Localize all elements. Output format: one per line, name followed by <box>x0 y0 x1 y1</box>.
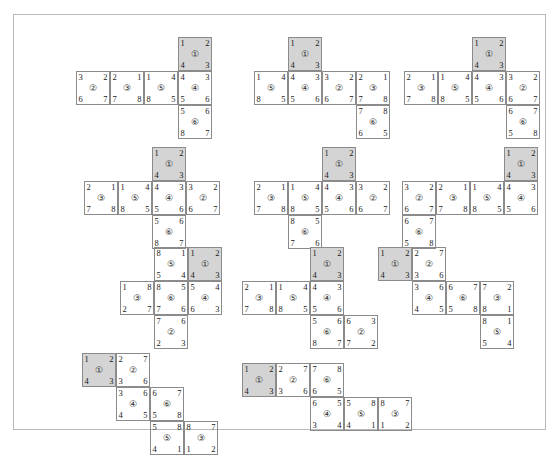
corner-bottom-left-label: 7 <box>347 339 351 348</box>
corner-bottom-left-label: 3 <box>415 271 419 280</box>
corner-bottom-right-label: 3 <box>337 271 341 280</box>
corner-top-right-label: 8 <box>337 365 341 374</box>
net-face-cell: ③2178 <box>254 181 288 215</box>
corner-bottom-right-label: 4 <box>337 421 341 430</box>
corner-bottom-left-label: 4 <box>507 171 511 180</box>
corner-top-left-label: 6 <box>405 217 409 226</box>
net-face-cell: ⑥6758 <box>150 387 184 421</box>
corner-top-right-label: 2 <box>213 183 217 192</box>
corner-bottom-left-label: 5 <box>483 339 487 348</box>
corner-top-left-label: 7 <box>157 317 161 326</box>
corner-top-right-label: 6 <box>205 107 209 116</box>
net-face-cell: ②3267 <box>322 71 356 105</box>
corner-bottom-right-label: 7 <box>349 95 353 104</box>
corner-bottom-left-label: 4 <box>153 445 157 454</box>
corner-bottom-right-label: 1 <box>177 445 181 454</box>
corner-bottom-right-label: 6 <box>499 95 503 104</box>
corner-bottom-left-label: 8 <box>121 205 125 214</box>
corner-top-left-label: 1 <box>291 183 295 192</box>
net-face-cell: ⑥5687 <box>152 215 186 249</box>
corner-bottom-left-label: 4 <box>313 271 317 280</box>
net-face-cell: ③2178 <box>356 71 390 105</box>
net-face-cell: ⑥6758 <box>506 105 540 139</box>
corner-top-left-label: 6 <box>347 317 351 326</box>
corner-bottom-right-label: 5 <box>383 129 387 138</box>
corner-top-right-label: 2 <box>507 283 511 292</box>
corner-bottom-left-label: 5 <box>313 305 317 314</box>
corner-bottom-right-label: 6 <box>337 305 341 314</box>
corner-bottom-left-label: 7 <box>157 305 161 314</box>
corner-top-right-label: 7 <box>143 355 147 364</box>
net-face-cell: ①1243 <box>310 247 344 281</box>
corner-top-left-label: 3 <box>405 183 409 192</box>
corner-bottom-left-label: 6 <box>313 387 317 396</box>
corner-top-right-label: 2 <box>531 149 535 158</box>
corner-top-right-label: 2 <box>429 183 433 192</box>
corner-bottom-left-label: 8 <box>291 205 295 214</box>
corner-bottom-left-label: 6 <box>325 95 329 104</box>
corner-bottom-right-label: 6 <box>349 205 353 214</box>
corner-bottom-right-label: 6 <box>303 387 307 396</box>
corner-bottom-right-label: 8 <box>177 411 181 420</box>
corner-bottom-right-label: 3 <box>179 171 183 180</box>
corner-bottom-left-label: 8 <box>155 239 159 248</box>
corner-bottom-left-label: 4 <box>475 61 479 70</box>
corner-top-left-label: 3 <box>325 73 329 82</box>
corner-bottom-right-label: 7 <box>179 239 183 248</box>
corner-bottom-left-label: 5 <box>475 95 479 104</box>
corner-top-left-label: 7 <box>359 107 363 116</box>
net-face-cell: ②6372 <box>344 315 378 349</box>
corner-bottom-right-label: 8 <box>269 305 273 314</box>
corner-bottom-right-label: 3 <box>499 61 503 70</box>
corner-top-right-label: 2 <box>179 149 183 158</box>
corner-bottom-right-label: 3 <box>269 387 273 396</box>
net-face-cell: ②3267 <box>76 71 110 105</box>
corner-bottom-right-label: 6 <box>205 95 209 104</box>
corner-top-right-label: 4 <box>281 73 285 82</box>
corner-top-right-label: 3 <box>315 73 319 82</box>
corner-bottom-right-label: 8 <box>463 205 467 214</box>
corner-bottom-left-label: 8 <box>257 95 261 104</box>
corner-top-right-label: 3 <box>371 317 375 326</box>
corner-top-left-label: 6 <box>509 107 513 116</box>
corner-top-right-label: 2 <box>103 73 107 82</box>
corner-top-right-label: 4 <box>303 283 307 292</box>
corner-top-right-label: 1 <box>269 283 273 292</box>
corner-bottom-right-label: 6 <box>439 271 443 280</box>
corner-bottom-right-label: 2 <box>371 339 375 348</box>
corner-top-left-label: 8 <box>157 283 161 292</box>
corner-top-left-label: 1 <box>245 365 249 374</box>
corner-top-left-label: 3 <box>359 183 363 192</box>
corner-top-right-label: 3 <box>205 73 209 82</box>
corner-bottom-right-label: 3 <box>531 171 535 180</box>
corner-bottom-left-label: 5 <box>405 239 409 248</box>
corner-bottom-left-label: 3 <box>279 387 283 396</box>
corner-top-right-label: 6 <box>181 317 185 326</box>
corner-bottom-right-label: 6 <box>179 205 183 214</box>
corner-top-left-label: 1 <box>191 249 195 258</box>
corner-bottom-right-label: 7 <box>383 205 387 214</box>
corner-top-left-label: 1 <box>313 249 317 258</box>
corner-bottom-right-label: 2 <box>405 421 409 430</box>
net-face-cell: ②3267 <box>356 181 390 215</box>
net-face-cell: ②3267 <box>186 181 220 215</box>
corner-top-right-label: 7 <box>177 389 181 398</box>
net-face-cell: ⑤1485 <box>470 181 504 215</box>
corner-bottom-right-label: 5 <box>281 95 285 104</box>
net-face-cell: ③8712 <box>184 421 218 455</box>
net-face-cell: ④4356 <box>310 281 344 315</box>
corner-top-left-label: 2 <box>407 73 411 82</box>
corner-bottom-right-label: 3 <box>349 171 353 180</box>
corner-bottom-right-label: 1 <box>371 421 375 430</box>
corner-top-right-label: 7 <box>405 399 409 408</box>
corner-bottom-left-label: 8 <box>441 95 445 104</box>
corner-bottom-left-label: 3 <box>119 377 123 386</box>
corner-bottom-right-label: 7 <box>533 95 537 104</box>
corner-top-right-label: 3 <box>499 73 503 82</box>
corner-top-right-label: 4 <box>145 183 149 192</box>
corner-bottom-left-label: 6 <box>405 205 409 214</box>
corner-top-left-label: 6 <box>313 399 317 408</box>
net-face-cell: ④4356 <box>178 71 212 105</box>
corner-top-left-label: 4 <box>181 73 185 82</box>
corner-top-left-label: 2 <box>279 365 283 374</box>
